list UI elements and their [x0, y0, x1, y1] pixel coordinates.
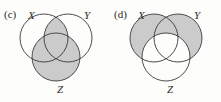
set-label-y: Y — [84, 10, 90, 21]
set-label-x: X — [28, 10, 35, 21]
panel-c-venn-svg — [0, 0, 110, 102]
shaded-region-x-union-y-minus-z — [130, 14, 202, 62]
shaded-region-x-and-y — [0, 0, 110, 102]
set-label-y: Y — [194, 10, 200, 21]
venn-figure: (c) X Y Z — [0, 0, 221, 102]
set-label-x: X — [138, 10, 145, 21]
set-label-z: Z — [167, 84, 173, 95]
panel-d: (d) X Y Z — [110, 0, 220, 102]
set-label-z: Z — [57, 84, 63, 95]
panel-c: (c) X Y Z — [0, 0, 110, 102]
panel-d-venn-svg — [110, 0, 220, 102]
